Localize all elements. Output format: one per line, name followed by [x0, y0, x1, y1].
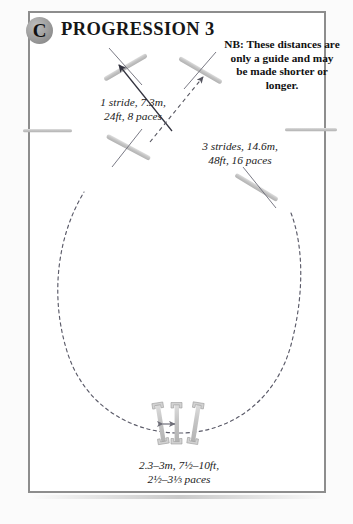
- ground-pole-icon: [152, 402, 204, 445]
- jump-pole-icon: [234, 167, 278, 208]
- page-title: PROGRESSION 3: [61, 19, 215, 40]
- note-text: NB: These distances are only a guide and…: [224, 38, 340, 92]
- dashed-course-line: [58, 192, 301, 433]
- circled-letter-badge: C: [26, 17, 53, 44]
- jump-pole-icon: [106, 129, 151, 167]
- page-root: C PROGRESSION 3 NB: These distances are …: [0, 0, 353, 524]
- jump-pole-icon: [103, 48, 148, 85]
- jump-pole-icon: [178, 52, 223, 89]
- label-stride-1: 1 stride, 7.3m, 24ft, 8 paces: [78, 96, 188, 123]
- label-stride-3: 3 strides, 14.6m, 48ft, 16 paces: [178, 140, 302, 167]
- label-spread-distance: 2.3–3m, 7½–10ft, 2½–3⅓ paces: [108, 459, 250, 486]
- side-marker-icon: [23, 128, 337, 132]
